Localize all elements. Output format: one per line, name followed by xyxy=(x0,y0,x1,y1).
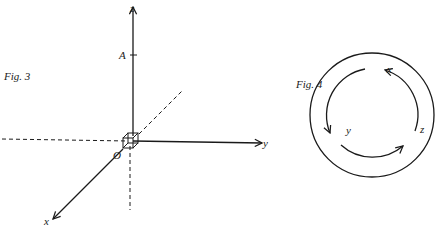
neg-x-axis-dashed xyxy=(139,90,183,134)
arc-z-to-x xyxy=(385,70,418,131)
cycle-label-y: y xyxy=(345,124,351,136)
neg-y-axis-dashed xyxy=(2,139,128,141)
outer-circle xyxy=(310,53,434,177)
y-axis-label: y xyxy=(262,137,268,149)
origin-label: O xyxy=(113,149,121,161)
y-axis xyxy=(133,141,262,143)
x-axis-label: x xyxy=(43,215,49,227)
cycle-label-x: x xyxy=(386,63,392,75)
arc-y-to-z xyxy=(341,145,403,157)
point-a-label: A xyxy=(118,49,126,61)
figures-canvas: Fig. 3 z A y O x Fig. 4 x y z xyxy=(0,0,442,231)
fig4-cycle-diagram xyxy=(310,53,434,177)
z-axis-label: z xyxy=(129,2,135,14)
fig3-coordinate-axes xyxy=(2,7,262,219)
cycle-label-z: z xyxy=(419,123,425,135)
fig3-caption: Fig. 3 xyxy=(3,70,31,82)
